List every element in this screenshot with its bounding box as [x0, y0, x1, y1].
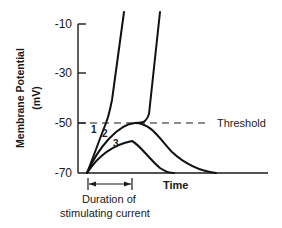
- curve-2-decay: [135, 123, 216, 173]
- duration-arrow-left-icon: [89, 182, 96, 187]
- duration-arrow-right-icon: [124, 182, 131, 187]
- y-tick-labels: -10 -30 -50 -70: [55, 17, 73, 180]
- x-axis-title: Time: [163, 179, 188, 191]
- y-tick-label-m10: -10: [55, 17, 73, 31]
- y-tick-label-m50: -50: [55, 116, 73, 130]
- y-axis-title-text: Membrane Potential: [14, 48, 26, 148]
- threshold-label: Threshold: [217, 117, 266, 129]
- y-tick-label-m30: -30: [55, 66, 73, 80]
- curve-label-3: 3: [113, 138, 119, 149]
- curve-label-1: 1: [91, 124, 97, 135]
- y-axis-unit-text: (mV): [30, 86, 42, 109]
- y-tick-label-m70: -70: [55, 166, 73, 180]
- membrane-potential-chart: Membrane Potential (mV) -10 -30 -50 -70 …: [0, 0, 282, 228]
- curve-2-spike: [87, 12, 160, 173]
- curve-label-2: 2: [102, 128, 108, 139]
- duration-label-line2: stimulating current: [60, 207, 150, 219]
- curve-3: [87, 141, 174, 173]
- curves: [87, 12, 216, 173]
- duration-label-line1: Duration of: [82, 193, 137, 205]
- y-axis: [78, 24, 86, 173]
- y-axis-title: Membrane Potential (mV): [14, 48, 42, 148]
